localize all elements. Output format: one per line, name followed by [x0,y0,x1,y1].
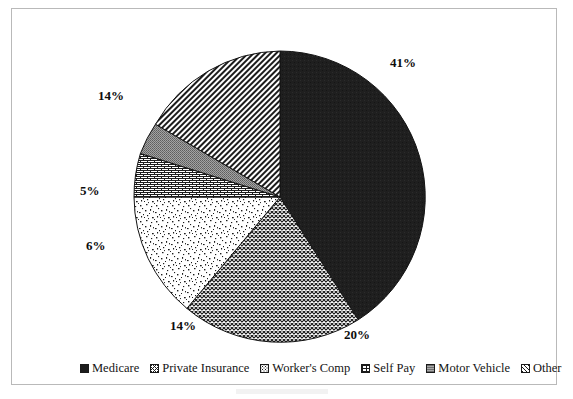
legend-swatch-gray-icon [426,364,435,373]
pie-label-other: 14% [98,88,124,104]
legend-swatch-solid-black-icon [80,364,89,373]
screenshot-page: 41% 20% 14% 6% 5% 14% Medicare Private I… [0,0,573,399]
legend-item-motor-vehicle[interactable]: Motor Vehicle [426,362,510,375]
pie-chart: 41% 20% 14% 6% 5% 14% Medicare Private I… [0,0,573,399]
legend-item-private-insurance[interactable]: Private Insurance [150,362,249,375]
legend-swatch-speckle-icon [260,364,269,373]
pie-label-workers-comp: 14% [170,318,196,334]
pie-label-self-pay: 6% [86,238,106,254]
legend-swatch-brick-icon [361,364,370,373]
pie-label-motor-vehicle: 5% [80,183,100,199]
legend-item-other[interactable]: Other [521,362,561,375]
legend-item-medicare[interactable]: Medicare [80,362,139,375]
pie-label-private-insurance: 20% [344,327,370,343]
legend-label-workers-comp: Worker's Comp [272,362,350,375]
legend-label-self-pay: Self Pay [373,362,415,375]
pie-chart-svg [0,0,573,399]
legend-label-medicare: Medicare [92,362,139,375]
scan-artifact [236,389,328,394]
pie-slices [134,51,425,342]
legend-swatch-crosshatch-icon [150,364,159,373]
pie-label-medicare: 41% [390,55,416,71]
legend-label-motor-vehicle: Motor Vehicle [438,362,510,375]
legend-swatch-diagonal-icon [521,364,530,373]
legend-label-private-insurance: Private Insurance [162,362,249,375]
legend-item-workers-comp[interactable]: Worker's Comp [260,362,350,375]
chart-legend: Medicare Private Insurance Worker's Comp… [80,359,500,377]
legend-item-self-pay[interactable]: Self Pay [361,362,415,375]
legend-label-other: Other [533,362,561,375]
